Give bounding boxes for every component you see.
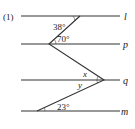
angle-label-y: y	[77, 80, 82, 90]
zigzag-transversal	[37, 16, 104, 111]
angle-label-70: 70°	[57, 34, 70, 44]
problem-number: (1)	[3, 12, 14, 22]
line-label-m: m	[121, 106, 128, 117]
arc-38	[73, 16, 75, 21]
angle-label-23: 23°	[57, 102, 70, 112]
angle-label-x: x	[82, 69, 87, 79]
line-label-q: q	[123, 75, 128, 86]
parallel-lines-diagram: (1) l p q m 38° 70° x y 23°	[0, 0, 135, 129]
arc-x	[97, 76, 98, 80]
angle-label-38: 38°	[53, 22, 66, 32]
line-label-p: p	[122, 39, 128, 50]
line-label-l: l	[124, 11, 127, 22]
arc-70	[54, 39, 56, 44]
